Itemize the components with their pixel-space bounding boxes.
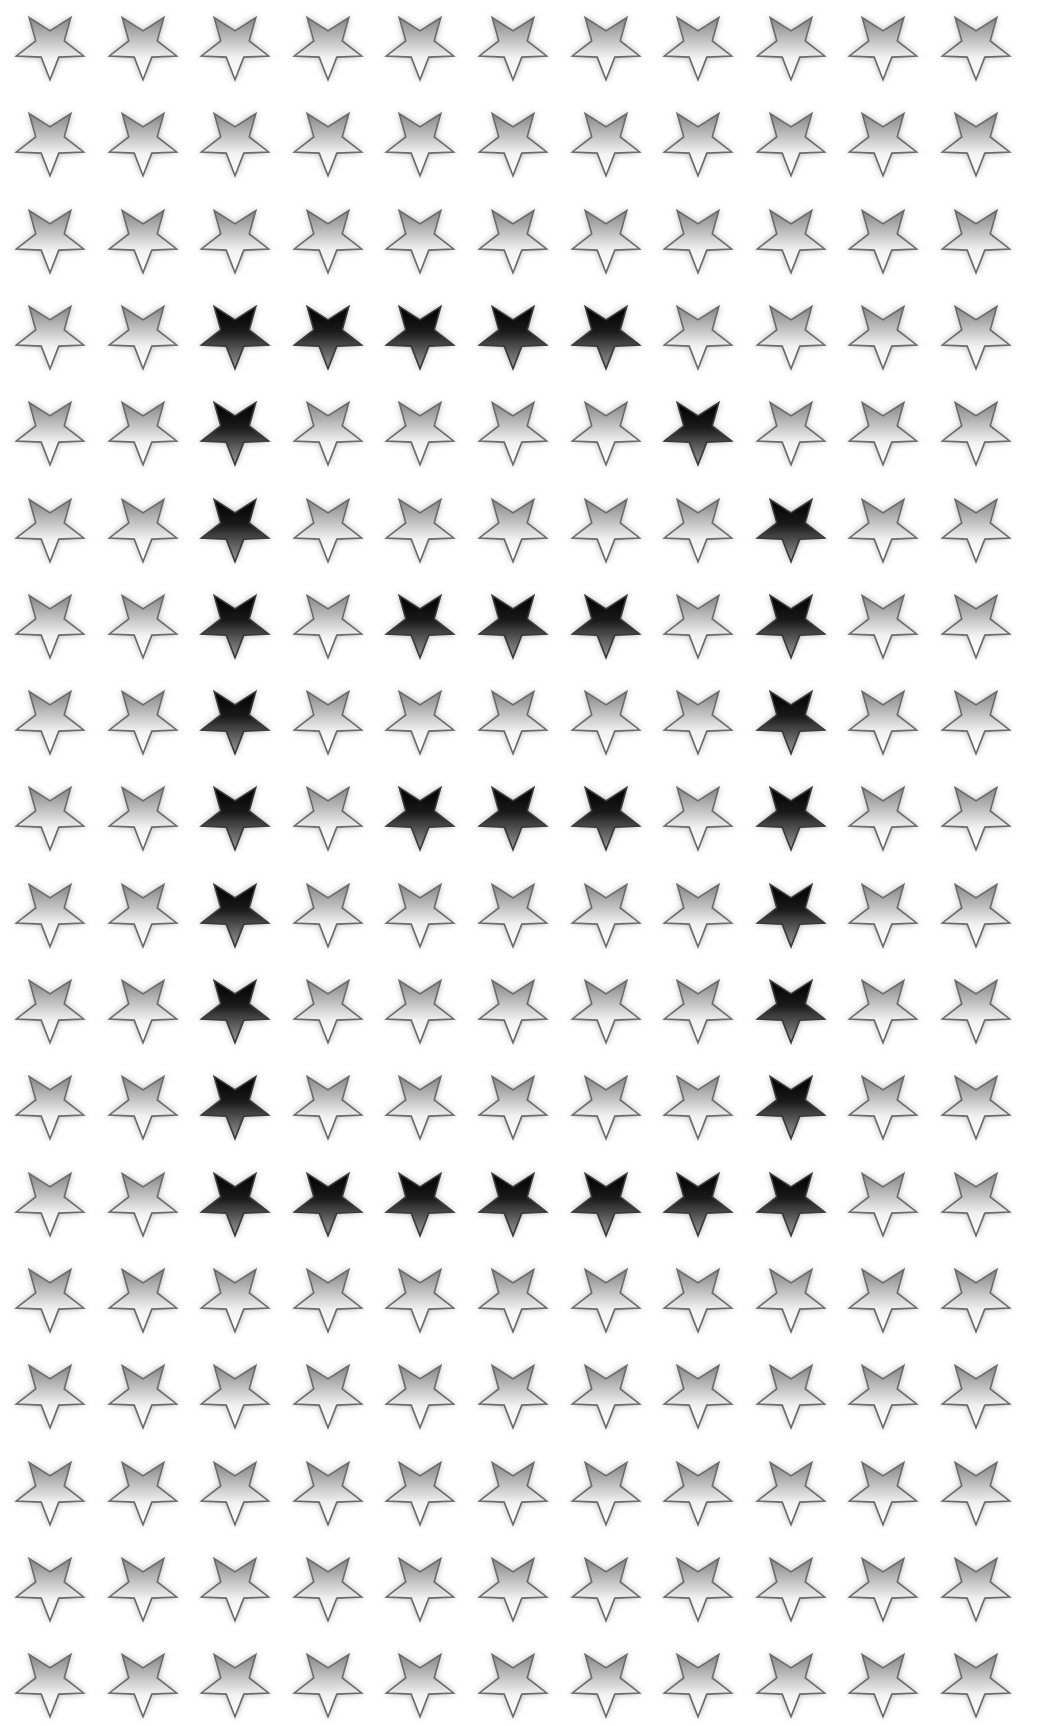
dark-star-icon (757, 1171, 825, 1237)
light-star-icon (664, 593, 732, 659)
light-star-icon (572, 400, 640, 466)
light-star-icon (294, 15, 362, 81)
light-star-icon (109, 208, 177, 274)
light-star-icon (942, 208, 1010, 274)
light-star-icon (664, 111, 732, 177)
dark-star-icon (757, 1074, 825, 1140)
light-star-icon (294, 497, 362, 563)
light-star-icon (109, 400, 177, 466)
light-star-icon (16, 208, 84, 274)
dark-star-icon (201, 400, 269, 466)
star-grid: Star grid pattern (0, 0, 1037, 1726)
light-star-icon (572, 978, 640, 1044)
light-star-icon (109, 1556, 177, 1622)
dark-star-icon (479, 304, 547, 370)
light-star-icon (386, 111, 454, 177)
light-star-icon (479, 1267, 547, 1333)
light-star-icon (942, 1171, 1010, 1237)
light-star-icon (294, 689, 362, 755)
light-star-icon (386, 1363, 454, 1429)
light-star-icon (572, 1074, 640, 1140)
light-star-icon (294, 1074, 362, 1140)
light-star-icon (479, 400, 547, 466)
light-star-icon (201, 208, 269, 274)
light-star-icon (109, 1171, 177, 1237)
light-star-icon (849, 15, 917, 81)
light-star-icon (757, 15, 825, 81)
light-star-icon (849, 978, 917, 1044)
light-star-icon (479, 882, 547, 948)
light-star-icon (664, 1556, 732, 1622)
light-star-icon (664, 1074, 732, 1140)
light-star-icon (386, 978, 454, 1044)
light-star-icon (386, 689, 454, 755)
light-star-icon (294, 400, 362, 466)
light-star-icon (479, 111, 547, 177)
light-star-icon (16, 304, 84, 370)
light-star-icon (942, 1460, 1010, 1526)
light-star-icon (294, 785, 362, 851)
light-star-icon (479, 689, 547, 755)
light-star-icon (109, 593, 177, 659)
light-star-icon (664, 978, 732, 1044)
light-star-icon (942, 497, 1010, 563)
light-star-icon (942, 400, 1010, 466)
light-star-icon (849, 1074, 917, 1140)
light-star-icon (757, 1363, 825, 1429)
light-star-icon (572, 15, 640, 81)
light-star-icon (479, 1363, 547, 1429)
light-star-icon (849, 1267, 917, 1333)
light-star-icon (294, 978, 362, 1044)
light-star-icon (386, 1652, 454, 1718)
light-star-icon (572, 1556, 640, 1622)
light-star-icon (664, 689, 732, 755)
light-star-icon (16, 15, 84, 81)
light-star-icon (16, 497, 84, 563)
dark-star-icon (479, 1171, 547, 1237)
dark-star-icon (572, 304, 640, 370)
light-star-icon (201, 1652, 269, 1718)
light-star-icon (201, 1460, 269, 1526)
dark-star-icon (572, 593, 640, 659)
light-star-icon (942, 689, 1010, 755)
light-star-icon (16, 1267, 84, 1333)
light-star-icon (942, 882, 1010, 948)
light-star-icon (16, 1074, 84, 1140)
light-star-icon (109, 15, 177, 81)
light-star-icon (386, 497, 454, 563)
light-star-icon (16, 785, 84, 851)
dark-star-icon (757, 689, 825, 755)
light-star-icon (294, 208, 362, 274)
dark-star-icon (201, 785, 269, 851)
light-star-icon (942, 978, 1010, 1044)
light-star-icon (572, 1267, 640, 1333)
light-star-icon (386, 882, 454, 948)
light-star-icon (572, 1363, 640, 1429)
light-star-icon (572, 208, 640, 274)
light-star-icon (16, 1460, 84, 1526)
light-star-icon (386, 1267, 454, 1333)
light-star-icon (942, 1074, 1010, 1140)
light-star-icon (294, 593, 362, 659)
dark-star-icon (479, 593, 547, 659)
light-star-icon (479, 1652, 547, 1718)
light-star-icon (572, 1460, 640, 1526)
light-star-icon (942, 111, 1010, 177)
light-star-icon (664, 304, 732, 370)
light-star-icon (294, 1460, 362, 1526)
light-star-icon (16, 1652, 84, 1718)
light-star-icon (16, 689, 84, 755)
light-star-icon (664, 1363, 732, 1429)
dark-star-icon (386, 785, 454, 851)
light-star-icon (849, 785, 917, 851)
light-star-icon (942, 15, 1010, 81)
light-star-icon (201, 1267, 269, 1333)
light-star-icon (109, 111, 177, 177)
light-star-icon (386, 208, 454, 274)
dark-star-icon (572, 1171, 640, 1237)
light-star-icon (757, 1460, 825, 1526)
light-star-icon (757, 208, 825, 274)
light-star-icon (942, 304, 1010, 370)
dark-star-icon (201, 1074, 269, 1140)
light-star-icon (849, 304, 917, 370)
